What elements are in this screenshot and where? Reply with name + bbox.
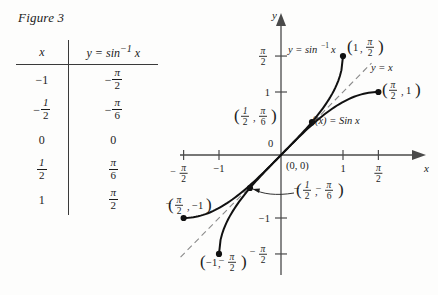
x-tick-label-0-denominator: 2 — [181, 174, 186, 184]
label-arcsin-neg-half-point-y-frac-sign: − — [316, 183, 322, 194]
cell-y-3-frac: π6 — [109, 157, 119, 181]
label-arcsin-lower-endpoint-close-paren: ) — [241, 252, 247, 271]
leader-arrowhead-neg-half-point — [253, 189, 260, 194]
label-sine-lower-endpoint-y-value: −1 — [192, 200, 203, 211]
origin-point-label: (0, 0) — [286, 160, 309, 172]
graph-panel: xy−π2−11π2π21−1−π20(0, 0)(1,π2)(12,π6)(π… — [160, 0, 438, 295]
label-arcsin-lower-endpoint-y-frac-sign: − — [219, 255, 225, 266]
label-sine-upper-endpoint-comma: , — [401, 86, 404, 97]
label-arcsin-neg-half-point-y-frac-numerator: π — [327, 180, 332, 190]
label-arcsin-neg-half-point-y-frac-denominator: 6 — [327, 191, 332, 201]
column-header-y-exponent: −1 — [120, 43, 132, 54]
arcsine-label-lead: y = sin — [287, 44, 317, 55]
cell-x-3-frac-numerator: 1 — [37, 157, 47, 170]
cell-y-1-frac-numerator: π — [112, 97, 122, 110]
value-table: x y = sin−1 x −1−π2−12−π60012π61π2 — [16, 40, 158, 215]
label-arcsin-lower-endpoint-y-frac-denominator: 2 — [230, 263, 235, 273]
label-sine-lower-endpoint-x-frac-numerator: π — [177, 195, 182, 205]
figure-root: Figure 3 x y = sin−1 x −1−π2−12−π60012π6… — [0, 0, 438, 295]
x-tick-label-1: −1 — [213, 163, 224, 174]
column-header-x: x — [16, 40, 68, 65]
y-tick-label-1: 1 — [265, 87, 270, 98]
x-tick-label-2: 1 — [340, 163, 345, 174]
cell-x-0: −1 — [16, 65, 68, 96]
cell-y-0-frac-numerator: π — [112, 67, 122, 80]
label-arcsin-half-point-x-frac-denominator: 2 — [243, 117, 248, 127]
cell-x-4: 1 — [16, 185, 68, 215]
label-arcsin-half-point-y-frac-numerator: π — [261, 106, 266, 116]
label-arcsin-neg-half-point-x-frac-numerator: 1 — [305, 180, 310, 190]
y-tick-label-2: −1 — [259, 213, 270, 224]
cell-y-1-frac-denominator: 6 — [112, 110, 122, 122]
origin-tick-label: 0 — [268, 138, 273, 149]
label-arcsin-neg-half-point-y-frac: −π6 — [316, 180, 333, 201]
label-sine-upper-endpoint-x-frac: π2 — [389, 80, 397, 101]
table-row: −1−π2 — [16, 65, 158, 96]
label-sine-upper-endpoint-y-value: 1 — [406, 85, 411, 96]
x-tick-label-0-numerator: π — [181, 163, 186, 173]
label-sine-upper-endpoint-x-frac-denominator: 2 — [391, 91, 396, 101]
label-arcsin-half-point-close-paren: ) — [271, 106, 277, 125]
label-sine-lower-endpoint-x-frac-denominator: 2 — [177, 206, 182, 216]
point-arcsin-upper-endpoint — [340, 53, 346, 59]
cell-x-3-frac-denominator: 2 — [37, 170, 47, 182]
x-tick-label-3-numerator: π — [376, 163, 381, 173]
cell-y-3-frac-denominator: 6 — [109, 170, 119, 182]
cell-y-4-frac: π2 — [109, 187, 119, 211]
point-sine-upper-endpoint — [375, 89, 381, 95]
label-sine-upper-endpoint-x-frac-numerator: π — [391, 80, 396, 90]
y-tick-label-0-numerator: π — [261, 46, 266, 56]
label-arcsin-lower-endpoint-y-frac-numerator: π — [230, 252, 235, 262]
cell-y-3-frac-numerator: π — [109, 157, 119, 170]
table-header: x y = sin−1 x — [16, 40, 158, 65]
cell-x-1: −12 — [16, 95, 68, 125]
label-sine-upper-endpoint-close-paren: ) — [415, 80, 421, 99]
label-arcsin-half-point-open-paren: ( — [234, 106, 240, 125]
label-sine-lower-endpoint-x-frac-sign: − — [166, 198, 172, 209]
label-arcsin-upper-endpoint-x-value: 1 — [353, 42, 358, 53]
cell-y-0-frac-sign: − — [105, 73, 113, 88]
cell-y-0: −π2 — [68, 65, 158, 96]
table-row: −12−π6 — [16, 95, 158, 125]
label-arcsin-half-point-comma: , — [253, 112, 256, 123]
label-sine-lower-endpoint-comma: , — [187, 201, 190, 212]
identity-line-label: y = x — [370, 62, 393, 73]
cell-y-0-frac: π2 — [112, 67, 122, 91]
cell-x-3-frac: 12 — [37, 157, 47, 181]
label-arcsin-upper-endpoint: (1,π2) — [347, 37, 384, 59]
y-axis-label: y — [271, 9, 277, 21]
table-row: 1π2 — [16, 185, 158, 215]
point-arcsin-neg-half-point — [247, 185, 253, 191]
figure-caption: Figure 3 — [18, 10, 64, 26]
label-sine-upper-endpoint-open-paren: ( — [382, 80, 388, 99]
label-arcsin-half-point-y-frac-denominator: 6 — [261, 117, 266, 127]
cell-y-4-frac-numerator: π — [109, 187, 119, 200]
label-arcsin-half-point-x-frac: 12 — [241, 106, 249, 127]
label-sine-lower-endpoint: (−π2,−1) — [166, 195, 212, 217]
arcsine-label-exponent: −1 — [321, 41, 329, 50]
x-tick-label-0: −π2 — [170, 163, 187, 184]
label-sine-lower-endpoint-close-paren: ) — [206, 195, 212, 214]
label-arcsin-upper-endpoint-y-frac: π2 — [366, 37, 374, 58]
label-arcsin-upper-endpoint-y-frac-numerator: π — [368, 37, 373, 47]
arcsine-label-trail: x — [330, 44, 336, 55]
label-arcsin-upper-endpoint-y-frac-denominator: 2 — [368, 48, 373, 58]
x-axis-label: x — [423, 162, 429, 174]
x-tick-label-3: π2 — [374, 163, 382, 184]
cell-y-4: π2 — [68, 185, 158, 215]
restricted-sine-curve-label: f(x) = Sin x — [312, 115, 360, 127]
cell-x-2: 0 — [16, 125, 68, 155]
label-arcsin-half-point-x-frac-numerator: 1 — [243, 106, 248, 116]
table-body: −1−π2−12−π60012π61π2 — [16, 65, 158, 216]
y-axis-arrow — [276, 13, 286, 26]
arcsine-curve-label: y = sin−1x — [287, 41, 336, 55]
label-arcsin-lower-endpoint-x-value: −1 — [206, 257, 217, 268]
y-tick-label-3-sign: − — [250, 246, 256, 257]
x-axis-arrow — [412, 150, 426, 160]
cell-y-0-frac-denominator: 2 — [112, 80, 122, 92]
column-header-y-trail: x — [135, 46, 140, 60]
cell-x-1-frac-sign: − — [33, 103, 41, 118]
cell-x-1-frac-denominator: 2 — [41, 110, 51, 122]
x-tick-label-3-denominator: 2 — [376, 174, 381, 184]
label-arcsin-neg-half-point-x-frac-sign: − — [294, 183, 300, 194]
